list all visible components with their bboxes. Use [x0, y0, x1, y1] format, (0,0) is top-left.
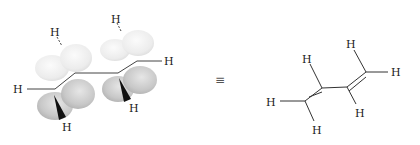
butadiene-diagram: H H H H H H ≡ H H H H H H — [0, 0, 420, 145]
atom-h-c4-right: H — [391, 66, 401, 79]
bond-c4-h-top — [354, 50, 366, 72]
atom-h-top-right: H — [111, 13, 121, 26]
atom-h-wedge-1: H — [62, 121, 72, 134]
atom-h-c3-bottom: H — [355, 107, 365, 120]
atom-h-top-left: H — [50, 26, 60, 39]
atom-h-c1-bottom: H — [312, 124, 322, 137]
atom-h-left: H — [13, 83, 23, 96]
equivalence-symbol: ≡ — [215, 73, 225, 87]
atom-h-right: H — [164, 55, 174, 68]
atom-h-c2-top: H — [302, 53, 312, 66]
orbital-model: H H H H H H — [13, 13, 174, 134]
double-bond-c1-c2-a — [305, 88, 322, 101]
atom-h-c4-top: H — [346, 38, 356, 51]
atom-h-wedge-2: H — [129, 102, 139, 115]
atom-h-c1-left: H — [266, 96, 276, 109]
line-structure — [280, 50, 388, 121]
upper-lobe-left — [35, 44, 92, 81]
bond-c1-h-bottom — [305, 101, 314, 121]
bond-c2-c3 — [322, 87, 347, 88]
bond-c2-h-top — [310, 64, 322, 88]
lower-lobe-left — [37, 79, 95, 120]
upper-lobe-right — [100, 30, 154, 61]
